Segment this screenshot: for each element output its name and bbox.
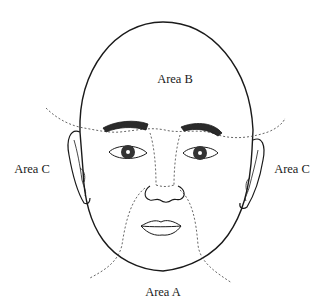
mouth-upper-lip xyxy=(141,221,181,227)
label-area-c-right: Area C xyxy=(274,162,310,177)
right-pupil-highlight xyxy=(198,151,202,155)
label-area-c-left: Area C xyxy=(14,162,50,177)
left-pupil-highlight xyxy=(126,150,130,154)
lower-face-zone-right xyxy=(180,190,232,283)
label-area-a: Area A xyxy=(145,285,181,300)
mouth-lower-lip xyxy=(141,226,181,235)
face-drawing xyxy=(0,0,327,301)
nose xyxy=(145,186,184,202)
left-ear xyxy=(68,131,90,203)
face-diagram: Area B Area C Area C Area A xyxy=(0,0,327,301)
nose-zone-left xyxy=(150,133,156,185)
head-outline xyxy=(80,22,253,271)
left-eyebrow xyxy=(103,121,148,132)
label-area-b: Area B xyxy=(157,72,193,87)
right-eyebrow xyxy=(181,123,222,136)
nose-zone-right xyxy=(156,135,180,187)
forehead-zone-boundary xyxy=(46,108,285,138)
